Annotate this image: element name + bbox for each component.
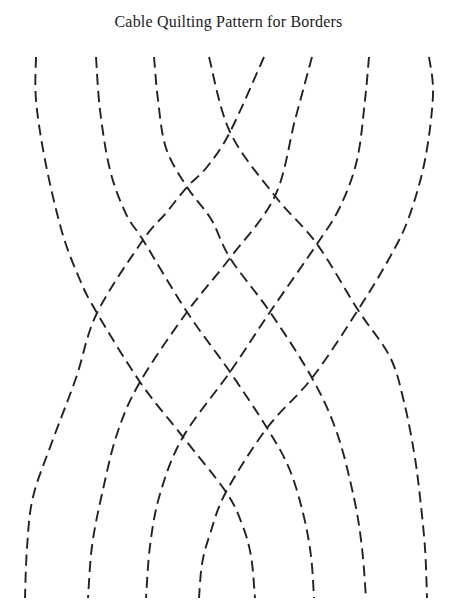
cable-strand-5 — [25, 57, 264, 598]
pattern-page: Cable Quilting Pattern for Borders — [0, 0, 457, 604]
cable-strand-6 — [88, 57, 312, 598]
cable-pattern-svg — [0, 0, 457, 604]
cable-strand-1 — [35, 57, 255, 598]
cable-strand-7 — [146, 57, 369, 598]
cable-strand-4 — [209, 57, 427, 598]
